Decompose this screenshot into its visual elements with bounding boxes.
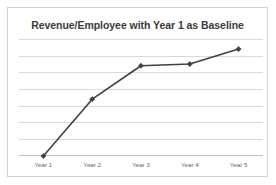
x-tick-label: Year 3	[117, 160, 166, 174]
data-point-marker	[236, 46, 241, 51]
chart-title: Revenue/Employee with Year 1 as Baseline	[8, 19, 267, 31]
plot-area	[19, 39, 263, 156]
x-tick-label: Year 2	[68, 160, 117, 174]
x-tick-label: Year 1	[19, 160, 68, 174]
series-markers	[41, 46, 241, 158]
chart-frame: Revenue/Employee with Year 1 as Baseline…	[7, 7, 268, 177]
data-point-marker	[187, 61, 192, 66]
x-axis-labels: Year 1 Year 2 Year 3 Year 4 Year 5	[19, 160, 263, 174]
series-line-chart	[19, 39, 263, 156]
x-tick-label: Year 4	[165, 160, 214, 174]
x-tick-label: Year 5	[214, 160, 263, 174]
